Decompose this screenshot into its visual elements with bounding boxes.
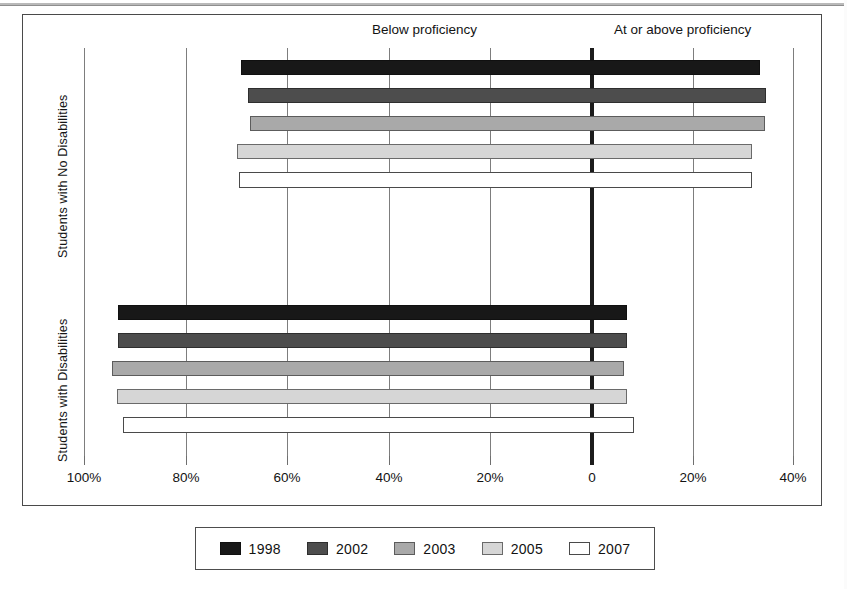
bar-no-disabilities-2002	[248, 88, 766, 103]
bar-with-disabilities-2003	[112, 361, 624, 376]
legend-item-1998[interactable]: 1998	[220, 541, 281, 557]
header-at-or-above-proficiency: At or above proficiency	[614, 22, 751, 37]
tick-mark-plus20	[693, 456, 694, 465]
bar-with-disabilities-2005	[117, 389, 627, 404]
bar-no-disabilities-1998	[241, 60, 760, 75]
tick-label-20: 20%	[476, 470, 503, 485]
legend-label-2005: 2005	[511, 541, 543, 557]
legend-item-2002[interactable]: 2002	[307, 541, 368, 557]
tick-mark-plus40	[793, 456, 794, 465]
bar-with-disabilities-2007	[123, 417, 634, 433]
tick-mark-20	[490, 456, 491, 465]
tick-mark-0	[591, 456, 594, 465]
tick-label-40: 40%	[375, 470, 402, 485]
legend-item-2005[interactable]: 2005	[482, 541, 543, 557]
bar-no-disabilities-2007	[239, 172, 752, 188]
header-below-proficiency: Below proficiency	[372, 22, 477, 37]
legend-item-2003[interactable]: 2003	[394, 541, 455, 557]
legend-swatch-2002-icon	[307, 542, 328, 555]
tick-label-80: 80%	[172, 470, 199, 485]
tick-label-0: 0	[588, 470, 596, 485]
gridline-100	[84, 48, 85, 465]
bar-no-disabilities-2005	[237, 144, 752, 159]
legend-swatch-1998-icon	[220, 542, 241, 555]
tick-label-plus20: 20%	[679, 470, 706, 485]
tick-mark-40	[389, 456, 390, 465]
legend-label-2003: 2003	[423, 541, 455, 557]
bar-with-disabilities-2002	[118, 333, 627, 348]
legend-swatch-2003-icon	[394, 542, 415, 555]
gridline-plus20	[693, 48, 694, 465]
legend-swatch-2007-icon	[569, 542, 590, 555]
legend-swatch-2005-icon	[482, 542, 503, 555]
legend-label-2007: 2007	[598, 541, 630, 557]
bar-with-disabilities-1998	[118, 305, 627, 320]
scan-edge-line-secondary	[0, 5, 847, 6]
group-label-no-disabilities: Students with No Disabilities	[56, 94, 70, 258]
bar-no-disabilities-2003	[250, 116, 765, 131]
chart-legend: 1998 2002 2003 2005 2007	[195, 527, 655, 570]
tick-mark-100	[84, 456, 85, 465]
legend-item-2007[interactable]: 2007	[569, 541, 630, 557]
tick-mark-80	[186, 456, 187, 465]
gridline-plus40	[793, 48, 794, 465]
tick-label-60: 60%	[273, 470, 300, 485]
chart-page: Students with No Disabilities Students w…	[0, 0, 847, 589]
group-label-with-disabilities: Students with Disabilities	[56, 319, 70, 462]
legend-label-2002: 2002	[336, 541, 368, 557]
tick-label-100: 100%	[67, 470, 102, 485]
tick-label-plus40: 40%	[779, 470, 806, 485]
legend-label-1998: 1998	[249, 541, 281, 557]
tick-mark-60	[287, 456, 288, 465]
